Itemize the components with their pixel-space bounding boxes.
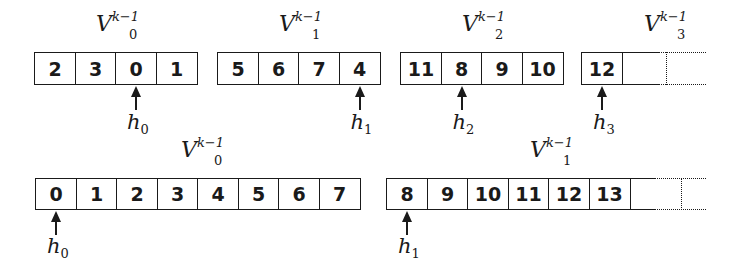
vector-cell: 11: [508, 178, 550, 210]
vector-cell: 0: [115, 52, 157, 85]
vector-subscript: 0: [214, 153, 222, 168]
head-pointer-label: h0: [47, 236, 69, 260]
vector-superscript: k−1: [295, 9, 322, 24]
head-name: h: [453, 110, 467, 134]
vector-dashed-boundary: [666, 52, 667, 85]
vector-label: Vk−10: [96, 12, 137, 39]
vector-label: Vk−11: [279, 12, 320, 39]
head-name: h: [351, 110, 365, 134]
vector-label: Vk−11: [530, 138, 571, 165]
head-pointer-label: h3: [593, 112, 615, 136]
vector-cell: 6: [278, 178, 320, 210]
vector-subscript: 3: [677, 27, 685, 42]
vector-cell: 1: [76, 178, 118, 210]
vector-superscript: k−1: [112, 9, 139, 24]
head-subscript: 3: [607, 122, 615, 137]
vector-cell: 7: [319, 178, 361, 210]
vector-name: V: [644, 11, 660, 36]
vector-name: V: [279, 11, 295, 36]
vector-subscript: 1: [563, 153, 571, 168]
vector-cell: 12: [548, 178, 590, 210]
vector-continuation-line: [623, 52, 658, 53]
vector-cell: 3: [75, 52, 117, 85]
head-pointer-label: h2: [453, 112, 475, 136]
head-name: h: [47, 234, 61, 258]
vector-subscript: 2: [495, 27, 503, 42]
vector-cell: 5: [217, 52, 259, 85]
vector-cell: 1: [156, 52, 198, 85]
vector-cell: 9: [427, 178, 469, 210]
vector-label: Vk−13: [644, 12, 685, 39]
vector-cell: 2: [116, 178, 158, 210]
head-pointer-label: h1: [398, 236, 420, 260]
vector-subscript: 0: [129, 27, 137, 42]
vector-subscript: 1: [312, 27, 320, 42]
vector-cell: 0: [35, 178, 77, 210]
head-subscript: 1: [364, 122, 372, 137]
vector-cell: 10: [522, 52, 564, 85]
vector-cell: 4: [339, 52, 381, 85]
head-subscript: 1: [412, 246, 420, 261]
vector-superscript: k−1: [546, 135, 573, 150]
head-pointer-label: h0: [127, 112, 149, 136]
vector-cell: 11: [400, 52, 442, 85]
vector-cell: 4: [197, 178, 239, 210]
vector-name: V: [181, 137, 197, 162]
head-name: h: [127, 110, 141, 134]
vector-dashed-boundary: [681, 178, 682, 210]
vector-cell: 6: [258, 52, 300, 85]
vector-cell: 12: [581, 52, 623, 85]
vector-cell: 8: [386, 178, 428, 210]
head-name: h: [593, 110, 607, 134]
head-subscript: 2: [466, 122, 474, 137]
vector-cell: 8: [441, 52, 483, 85]
vector-continuation-line: [631, 178, 656, 179]
vector-cell: 7: [298, 52, 340, 85]
head-pointer-label: h1: [351, 112, 373, 136]
vector-cell: 13: [589, 178, 631, 210]
vector-cell: 10: [467, 178, 509, 210]
vector-cell: 9: [481, 52, 523, 85]
vector-label: Vk−12: [462, 12, 503, 39]
head-subscript: 0: [141, 122, 149, 137]
vector-cell: 5: [238, 178, 280, 210]
vector-name: V: [96, 11, 112, 36]
vector-superscript: k−1: [197, 135, 224, 150]
vector-superscript: k−1: [660, 9, 687, 24]
head-subscript: 0: [61, 246, 69, 261]
vector-cell: 3: [157, 178, 199, 210]
vector-superscript: k−1: [478, 9, 505, 24]
vector-name: V: [530, 137, 546, 162]
head-name: h: [398, 234, 412, 258]
vector-cell: 2: [34, 52, 76, 85]
vector-label: Vk−10: [181, 138, 222, 165]
vector-continuation-line: [623, 84, 658, 85]
vector-name: V: [462, 11, 478, 36]
vector-continuation-line: [631, 209, 656, 210]
